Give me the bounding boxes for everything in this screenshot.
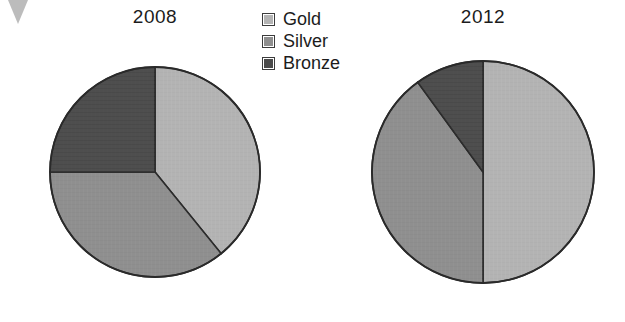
legend-item-silver: Silver	[262, 30, 392, 52]
legend-swatch-silver	[262, 35, 275, 48]
legend-swatch-bronze	[262, 57, 275, 70]
pie-slice-texture	[483, 61, 594, 283]
legend-label-bronze: Bronze	[283, 54, 340, 72]
pie-chart-figure: 2008 2012 Gold Silver Bronze	[0, 0, 625, 322]
pie-slice-texture	[50, 67, 155, 172]
chart-title-2012: 2012	[433, 6, 533, 28]
pie-chart-2012	[370, 59, 596, 285]
pie-chart-2008-svg	[48, 65, 262, 279]
legend-label-gold: Gold	[283, 10, 321, 28]
legend-label-silver: Silver	[283, 32, 328, 50]
legend-item-bronze: Bronze	[262, 52, 392, 74]
legend: Gold Silver Bronze	[262, 8, 392, 74]
legend-item-gold: Gold	[262, 8, 392, 30]
corner-marker-icon	[8, 0, 28, 24]
pie-chart-2008	[48, 65, 262, 279]
chart-title-2008: 2008	[105, 6, 205, 28]
legend-swatch-gold	[262, 13, 275, 26]
pie-chart-2012-svg	[370, 59, 596, 285]
